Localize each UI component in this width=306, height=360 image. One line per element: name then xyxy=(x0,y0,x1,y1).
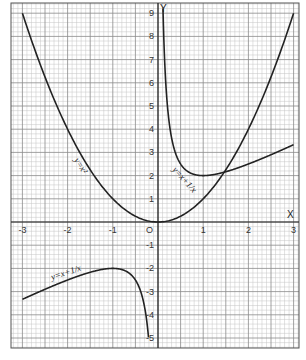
chart-plot: -3-2-1123987654321-1-2-3-4-5 X Y O y=x² … xyxy=(0,0,306,360)
y-tick-label: 3 xyxy=(149,147,154,157)
y-tick-label: 2 xyxy=(149,171,154,181)
x-tick-label: 1 xyxy=(201,225,206,235)
parabola-label: y=x² xyxy=(72,155,90,176)
y-tick-label: -5 xyxy=(146,333,154,343)
y-tick-label: 4 xyxy=(149,124,154,134)
x-tick-label: -3 xyxy=(18,225,26,235)
y-tick-label: -1 xyxy=(146,240,154,250)
y-tick-label: 9 xyxy=(149,8,154,18)
y-tick-label: -2 xyxy=(146,263,154,273)
x-tick-label: -1 xyxy=(109,225,117,235)
origin-label: O xyxy=(146,225,153,235)
x-axis-label: X xyxy=(287,209,294,220)
x-tick-label: -2 xyxy=(64,225,72,235)
hyperbola-left-label: y=x+1/x xyxy=(49,263,83,282)
y-tick-label: 1 xyxy=(149,194,154,204)
y-tick-label: -3 xyxy=(146,287,154,297)
y-tick-label: 8 xyxy=(149,31,154,41)
x-tick-label: 3 xyxy=(291,225,296,235)
y-tick-label: 5 xyxy=(149,101,154,111)
y-tick-label: 6 xyxy=(149,78,154,88)
y-tick-label: 7 xyxy=(149,55,154,65)
x-tick-label: 2 xyxy=(246,225,251,235)
